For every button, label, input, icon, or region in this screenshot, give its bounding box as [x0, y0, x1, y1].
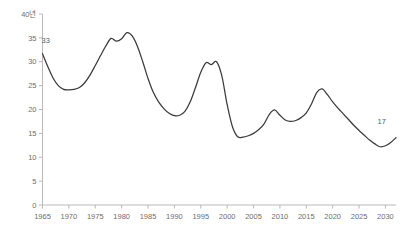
series-group — [43, 33, 397, 147]
x-tick-label: 2005 — [245, 212, 262, 221]
y-axis-unit-label: 40년 — [21, 9, 36, 19]
x-tick-label: 2010 — [272, 212, 289, 221]
x-axis: 1965197019751980198519901995200020052010… — [34, 205, 396, 221]
x-tick-label: 1995 — [192, 212, 209, 221]
x-tick-label: 2000 — [219, 212, 236, 221]
start-value-label: 33 — [41, 36, 49, 45]
annotation-group: 3317 — [41, 36, 385, 126]
x-tick-label: 2020 — [324, 212, 341, 221]
end-value-label: 17 — [378, 117, 386, 126]
x-tick-group: 1965197019751980198519901995200020052010… — [34, 205, 394, 221]
data-series-line — [43, 33, 397, 147]
x-tick-label: 2025 — [351, 212, 368, 221]
y-axis: 05101520253035 — [28, 14, 42, 210]
y-tick-group: 05101520253035 — [28, 14, 42, 210]
x-tick-label: 1985 — [140, 212, 157, 221]
x-tick-label: 1990 — [166, 212, 183, 221]
y-tick-label: 35 — [28, 34, 36, 43]
y-tick-label: 5 — [32, 177, 36, 186]
y-tick-label: 0 — [32, 201, 36, 210]
y-tick-label: 10 — [28, 153, 36, 162]
y-tick-label: 15 — [28, 129, 36, 138]
y-tick-label: 25 — [28, 81, 36, 90]
x-tick-label: 1965 — [34, 212, 51, 221]
y-tick-label: 20 — [28, 105, 36, 114]
x-tick-label: 2030 — [377, 212, 394, 221]
line-chart: 05101520253035 1965197019751980198519901… — [0, 0, 405, 235]
chart-canvas: 05101520253035 1965197019751980198519901… — [0, 0, 405, 235]
x-tick-label: 1970 — [61, 212, 78, 221]
x-tick-label: 1975 — [87, 212, 104, 221]
y-tick-label: 30 — [28, 57, 36, 66]
x-tick-label: 2015 — [298, 212, 315, 221]
x-tick-label: 1980 — [113, 212, 130, 221]
